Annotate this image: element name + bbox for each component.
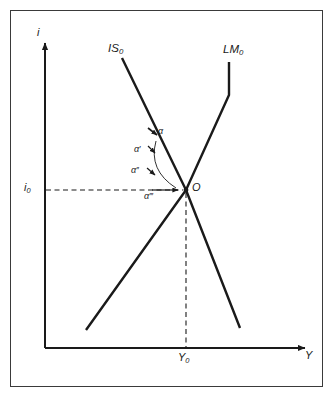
angle-label-alpha-prime: α′ [134, 145, 140, 154]
angle-label-alpha: α [158, 127, 163, 136]
y-tick-subscript: 0 [26, 186, 30, 195]
is-label-base: IS [108, 42, 119, 54]
alpha-base: α [158, 126, 163, 136]
alpha-prime-primes: ′ [139, 144, 140, 154]
x-tick-label-y0: Y0 [178, 352, 190, 365]
angle-label-alpha-double-prime: α′′ [131, 166, 139, 175]
alpha-triple-prime-primes: ′′′ [149, 191, 153, 201]
is-curve [122, 58, 240, 328]
is-curve-label: IS0 [108, 43, 123, 56]
x-axis-label: Y [305, 350, 312, 361]
alpha-double-prime-primes: ′′ [136, 165, 139, 175]
is-label-subscript: 0 [119, 47, 123, 56]
angle-label-alpha-triple-prime: α′′′ [144, 192, 153, 201]
alpha-prime-tick [148, 146, 155, 153]
equilibrium-point [184, 188, 189, 193]
lm-curve-label: LM0 [223, 44, 243, 57]
x-tick-subscript: 0 [185, 356, 189, 365]
lm-label-base: LM [223, 43, 239, 55]
lm-curve [86, 62, 229, 330]
equilibrium-point-label: O [192, 182, 201, 193]
figure-canvas: i Y i0 Y0 IS0 LM0 O α α′ α′′ α′′′ [0, 0, 335, 399]
y-axis-label: i [37, 27, 39, 38]
y-tick-label-i0: i0 [24, 182, 31, 195]
islm-plot [0, 0, 335, 399]
alpha-double-prime-tick [147, 168, 155, 175]
lm-label-subscript: 0 [239, 48, 243, 57]
